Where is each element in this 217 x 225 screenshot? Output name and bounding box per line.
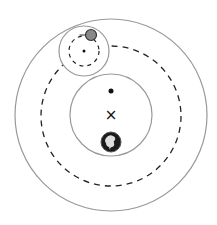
equant-dot [109, 89, 114, 94]
epicycle-diagram: × [0, 0, 217, 225]
center-x-marker: × [105, 106, 118, 124]
earth-icon [101, 132, 121, 152]
planet-icon [86, 30, 97, 41]
epicycle-center-dot [83, 50, 86, 53]
